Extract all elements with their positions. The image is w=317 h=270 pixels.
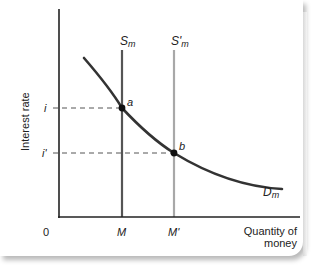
money-market-chart: a b Sm S'm Dm i i' M M' 0 Interest rate … [0,0,317,270]
equilibrium-point-b [171,150,178,157]
x-tick-m: M [117,226,127,238]
equilibrium-point-a [119,105,126,112]
point-a-label: a [127,96,133,108]
x-tick-m-prime: M' [168,226,180,238]
y-tick-i: i [44,102,47,114]
x-axis-title-line1: Quantity of [244,225,298,237]
origin-label: 0 [43,226,49,238]
point-b-label: b [179,140,185,152]
demand-dm-label: Dm [263,185,280,200]
supply-sm-prime-label: S'm [171,34,189,49]
supply-sm-label: Sm [120,34,136,49]
x-axis-title-line2: money [264,237,298,249]
demand-curve [84,58,282,189]
y-tick-i-prime: i' [42,147,47,159]
y-axis-title: Interest rate [19,92,31,151]
